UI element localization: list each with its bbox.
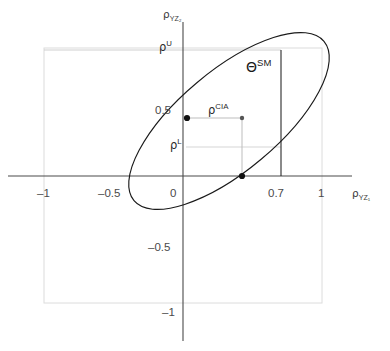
x-axis-title-base: ρ: [352, 187, 359, 199]
theta-sm-ellipse: [102, 3, 356, 239]
rho-bound-point: [239, 173, 245, 179]
rho-cia-label-sup: CIA: [215, 102, 228, 111]
correlation-region-figure: ρYZ₂ ρYZ₁ –1 –0.5 0 0.7 1 0.5 –0.5 –1 ρU…: [0, 0, 390, 351]
y-tick-minus1: –1: [162, 307, 175, 319]
y-tick-05: 0.5: [155, 105, 171, 117]
x-tick-zero: 0: [170, 188, 176, 200]
theta-sm-label-base: Θ: [246, 59, 257, 75]
plot-canvas: [0, 0, 390, 351]
x-tick-07: 0.7: [268, 188, 284, 200]
x-axis-title-sub: YZ₁: [359, 194, 371, 202]
rho-lower-point: [184, 115, 190, 121]
y-axis-title-sub: YZ₂: [170, 15, 182, 23]
x-axis-title: ρYZ₁: [352, 188, 370, 199]
x-tick-1: 1: [318, 188, 324, 200]
y-axis-title-base: ρ: [163, 8, 170, 20]
rho-l-label: ρL: [170, 140, 182, 152]
rho-l-label-sup: L: [177, 137, 181, 146]
theta-sm-label: ΘSM: [246, 60, 271, 74]
rho-u-label-sup: U: [166, 39, 172, 48]
rho-cia-point: [240, 116, 244, 120]
y-tick-minus05: –0.5: [148, 242, 170, 254]
x-tick-minus05: –0.5: [98, 188, 120, 200]
rho-u-label: ρU: [159, 42, 172, 54]
rho-cia-label: ρCIA: [208, 105, 228, 117]
x-tick-minus1: –1: [37, 188, 50, 200]
theta-sm-label-sup: SM: [257, 57, 271, 68]
y-axis-title: ρYZ₂: [163, 9, 182, 20]
